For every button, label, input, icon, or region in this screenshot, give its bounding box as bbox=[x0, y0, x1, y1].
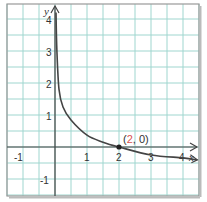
x-tick-3: 3 bbox=[148, 152, 154, 163]
y-tick-3: 3 bbox=[46, 47, 52, 58]
x-tick-neg1: -1 bbox=[14, 152, 23, 163]
x-tick-2: 2 bbox=[116, 152, 122, 163]
y-tick-neg1: -1 bbox=[40, 175, 49, 186]
y-tick-4: 4 bbox=[46, 15, 52, 26]
y-tick-2: 2 bbox=[46, 79, 52, 90]
point-2-0 bbox=[116, 144, 121, 149]
x-tick-1: 1 bbox=[84, 152, 90, 163]
graph: x y -1 1 2 3 4 4 3 2 1 -1 (2, 0) bbox=[0, 0, 207, 202]
y-tick-1: 1 bbox=[46, 111, 52, 122]
point-label: (2, 0) bbox=[123, 133, 149, 145]
point-label-rest: , 0) bbox=[133, 133, 149, 145]
